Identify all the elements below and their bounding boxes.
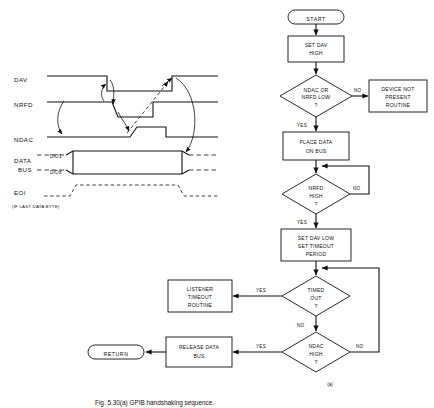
branch-label-timed-out-yes: YES (256, 288, 266, 293)
branch-label-ndac-nrfd-low-yes: YES (297, 123, 307, 128)
waveform-data-bus (37, 151, 218, 174)
waveform-dav (47, 76, 218, 91)
flow-node-timed-out-line1: TIMED (308, 287, 325, 293)
waveform-nrfd (47, 102, 218, 117)
flow-node-set-dav-high-line1: SET DAV (305, 42, 328, 48)
flow-node-ndac-high-line2: HIGH (309, 351, 323, 357)
flow-node-set-dav-high-line2: HIGH (309, 50, 323, 56)
figure-gpib-handshake: DAV NRFD NDAC DATA BUS DIO1 DIO8 EOI (IF… (0, 0, 434, 408)
flow-node-ndac-nrfd-low: NDAC OR NRFD LOW ? (280, 75, 352, 117)
flow-node-nrfd-high-line1: NRFD (309, 185, 324, 191)
signal-label-eoi: EOI (14, 189, 26, 196)
flow-node-start: START (288, 10, 344, 24)
flow-node-return: RETURN (88, 345, 144, 359)
flow-node-set-dav-low-line2: SET TIMEOUT (298, 243, 334, 249)
signal-label-data-bus-line1: DATA (14, 157, 32, 164)
signal-label-nrfd: NRFD (14, 101, 33, 108)
flow-node-listener-timeout: LISTENER TIMEOUT ROUTINE (168, 280, 232, 312)
flow-node-listener-timeout-line3: ROUTINE (188, 302, 213, 308)
flow-node-release-data: RELEASE DATA BUS (166, 337, 232, 367)
flow-node-ndac-nrfd-low-line1: NDAC OR (304, 87, 329, 93)
flow-node-return-label: RETURN (103, 351, 128, 357)
figure-caption: Fig. 5.30(a) GPIB handshaking sequence. (95, 399, 214, 407)
handshake-causal-arrows (58, 78, 195, 152)
flow-node-timed-out-line3: ? (314, 303, 317, 309)
flow-node-listener-timeout-line1: LISTENER (187, 286, 214, 292)
signal-note-eoi: (IF LAST DATA BYTE) (12, 204, 60, 209)
flow-node-timed-out-line2: OUT (310, 295, 321, 301)
flowchart: START SET DAV HIGH NDAC OR NRFD LOW ? NO… (88, 10, 427, 387)
subfigure-label-a: (a) (327, 382, 333, 387)
flow-node-nrfd-high: NRFD HIGH ? (282, 174, 350, 214)
waveform-eoi (44, 185, 218, 196)
flow-node-nrfd-high-line3: ? (314, 201, 317, 207)
flow-node-listener-timeout-line2: TIMEOUT (188, 294, 212, 300)
flow-node-ndac-high: NDAC HIGH ? (282, 332, 350, 372)
branch-label-nrfd-high-no: NO (353, 186, 361, 191)
timing-diagram: DAV NRFD NDAC DATA BUS DIO1 DIO8 EOI (IF… (12, 76, 218, 209)
flow-node-release-data-line2: BUS (193, 353, 204, 359)
flow-node-ndac-nrfd-low-line2: NRFD LOW (302, 94, 331, 100)
flow-node-device-not-present-line1: DEVICE NOT (381, 86, 414, 92)
flow-node-ndac-high-line3: ? (314, 359, 317, 365)
flow-node-set-dav-high: SET DAV HIGH (288, 36, 344, 62)
flow-node-ndac-high-line1: NDAC (308, 343, 323, 349)
flow-node-device-not-present-line2: PRESENT (385, 94, 410, 100)
flow-node-ndac-nrfd-low-line3: ? (314, 102, 317, 108)
branch-label-nrfd-high-yes: YES (297, 220, 307, 225)
signal-label-dav: DAV (14, 76, 28, 83)
flow-node-device-not-present-line3: ROUTINE (386, 102, 411, 108)
signal-sublabel-dio8: DIO8 (50, 170, 62, 175)
flow-node-set-dav-low-line3: PERIOD (306, 251, 327, 257)
flow-node-device-not-present: DEVICE NOT PRESENT ROUTINE (369, 80, 427, 112)
flow-node-set-dav-low-line1: SET DAV LOW (298, 235, 335, 241)
branch-label-ndac-high-no: NO (356, 344, 364, 349)
flow-node-place-data: PLACE DATA ON BUS (283, 132, 349, 160)
signal-label-data-bus-line2: BUS (18, 166, 32, 173)
flow-node-timed-out: TIMED OUT ? (282, 276, 350, 316)
flow-node-set-dav-low: SET DAV LOW SET TIMEOUT PERIOD (281, 229, 351, 261)
branch-label-timed-out-no: NO (297, 323, 305, 328)
figure-canvas: DAV NRFD NDAC DATA BUS DIO1 DIO8 EOI (IF… (0, 0, 434, 408)
flow-node-release-data-line1: RELEASE DATA (179, 344, 220, 350)
flow-node-start-label: START (306, 16, 326, 22)
signal-label-ndac: NDAC (14, 136, 33, 143)
branch-label-ndac-high-yes: YES (256, 344, 266, 349)
waveform-ndac (47, 127, 218, 137)
flow-node-place-data-line1: PLACE DATA (300, 139, 333, 145)
flow-node-place-data-line2: ON BUS (306, 148, 327, 154)
flow-node-nrfd-high-line2: HIGH (309, 193, 323, 199)
branch-label-ndac-nrfd-low-no: NO (354, 88, 362, 93)
